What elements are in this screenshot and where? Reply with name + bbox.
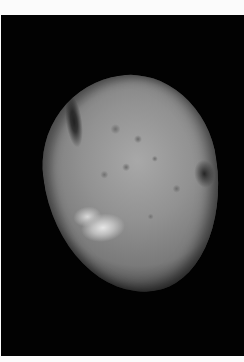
space-background bbox=[1, 15, 244, 356]
asteroid bbox=[31, 64, 234, 304]
